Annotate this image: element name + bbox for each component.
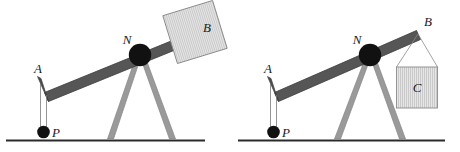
pivot-n	[129, 44, 151, 66]
label-a: A	[33, 61, 42, 76]
label-a: A	[263, 61, 272, 76]
pivot-n	[359, 44, 381, 66]
physics-figure: A N B P	[0, 0, 460, 152]
ball-p	[37, 126, 50, 139]
label-b: B	[203, 20, 211, 35]
support-leg-right	[140, 55, 176, 139]
label-n: N	[122, 32, 133, 47]
block-b-body	[163, 0, 227, 63]
right-diagram: A N B C P	[230, 0, 460, 152]
label-n: N	[352, 32, 363, 47]
block-b	[163, 0, 227, 63]
ball-p	[267, 126, 280, 139]
label-b: B	[424, 14, 432, 29]
left-diagram: A N B P	[0, 0, 230, 152]
label-p: P	[281, 125, 290, 140]
label-p: P	[51, 125, 60, 140]
label-c: C	[413, 80, 422, 95]
string-c-right	[418, 34, 438, 67]
